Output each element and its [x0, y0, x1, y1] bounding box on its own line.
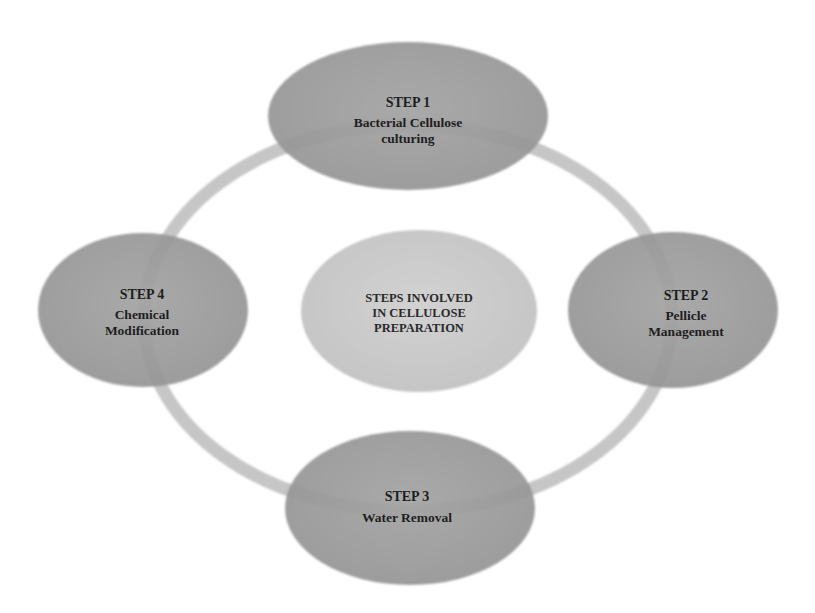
- step-4-title: STEP 4: [120, 287, 165, 302]
- step-2-label-line-2: Management: [648, 324, 724, 339]
- cycle-diagram: STEPS INVOLVED IN CELLULOSE PREPARATION …: [0, 0, 815, 613]
- step-4-label-line-1: Chemical: [115, 307, 170, 322]
- center-node: STEPS INVOLVED IN CELLULOSE PREPARATION: [301, 230, 537, 392]
- step-4-node: STEP 4 Chemical Modification: [38, 233, 248, 387]
- step-1-label-line-1: Bacterial Cellulose: [354, 115, 462, 130]
- step-3-title: STEP 3: [385, 489, 430, 504]
- center-label-line-1: STEPS INVOLVED: [365, 291, 472, 305]
- step-3-ellipse: [285, 431, 535, 585]
- step-1-label-line-2: culturing: [381, 131, 435, 146]
- step-4-label-line-2: Modification: [105, 323, 180, 338]
- step-1-title: STEP 1: [386, 95, 431, 110]
- center-label-line-2: IN CELLULOSE: [372, 306, 465, 320]
- step-2-label-line-1: Pellicle: [665, 308, 706, 323]
- step-1-node: STEP 1 Bacterial Cellulose culturing: [268, 42, 548, 190]
- step-2-title: STEP 2: [664, 288, 709, 303]
- step-3-label-line-1: Water Removal: [362, 510, 452, 525]
- center-label-line-3: PREPARATION: [374, 321, 464, 335]
- step-2-node: STEP 2 Pellicle Management: [568, 232, 778, 388]
- step-3-node: STEP 3 Water Removal: [285, 431, 535, 585]
